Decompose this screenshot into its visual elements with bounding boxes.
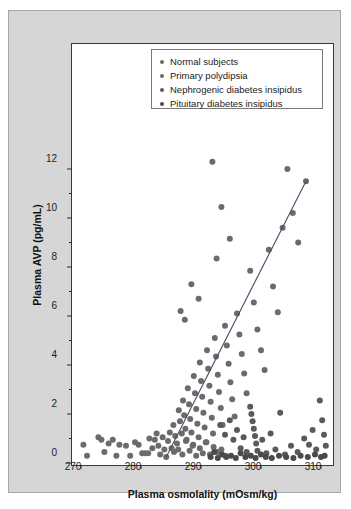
- legend-label: Primary polydipsia: [170, 69, 248, 82]
- legend-marker-icon: [160, 74, 164, 78]
- x-tick-label: 270: [55, 461, 91, 472]
- data-point: [152, 437, 158, 443]
- y-tick-label: 4: [37, 349, 57, 360]
- data-point: [238, 450, 244, 456]
- legend-marker-icon: [160, 88, 164, 92]
- data-point: [98, 437, 104, 443]
- data-point: [262, 367, 268, 373]
- legend-item-pituitary-diabetes-insipidus: Pituitary diabetes insipidus: [160, 97, 316, 110]
- legend-label: Nephrogenic diabetes insipidus: [170, 83, 302, 96]
- data-point: [310, 427, 316, 433]
- data-point: [227, 379, 233, 385]
- data-point: [170, 422, 176, 428]
- data-point: [244, 390, 250, 396]
- data-point: [182, 317, 188, 323]
- data-point: [301, 436, 307, 442]
- x-tick-label: 290: [175, 461, 211, 472]
- data-point: [247, 404, 253, 410]
- data-point: [196, 434, 202, 440]
- legend-marker-icon: [160, 60, 164, 64]
- figure-panel: Normal subjects Primary polydipsia Nephr…: [8, 10, 341, 493]
- data-point: [268, 431, 274, 437]
- data-point: [182, 426, 188, 432]
- data-point: [84, 453, 90, 459]
- data-point: [145, 450, 151, 456]
- data-point: [288, 443, 294, 449]
- data-point: [193, 453, 199, 459]
- y-tick-label: 0: [37, 447, 57, 458]
- data-point: [149, 445, 155, 451]
- data-point: [224, 342, 230, 348]
- data-point: [206, 383, 212, 389]
- legend: Normal subjects Primary polydipsia Nephr…: [151, 49, 323, 109]
- data-point: [101, 449, 107, 455]
- legend-item-nephrogenic-diabetes-insipidus: Nephrogenic diabetes insipidus: [160, 83, 316, 96]
- data-point: [252, 433, 258, 439]
- data-point: [215, 372, 221, 378]
- data-point: [283, 454, 289, 460]
- data-point: [110, 437, 116, 443]
- y-tick-label: 12: [37, 153, 57, 164]
- data-point: [209, 415, 215, 421]
- data-point: [241, 434, 247, 440]
- data-point: [183, 438, 189, 444]
- legend-label: Normal subjects: [170, 55, 238, 68]
- data-point: [180, 398, 186, 404]
- legend-label: Pituitary diabetes insipidus: [170, 97, 282, 110]
- data-point: [209, 159, 215, 165]
- data-point: [317, 398, 323, 404]
- data-point: [208, 399, 214, 405]
- data-point: [204, 347, 210, 353]
- data-point: [322, 453, 328, 459]
- data-point: [176, 407, 182, 413]
- data-point: [187, 416, 193, 422]
- data-point: [154, 431, 160, 437]
- x-axis-title: Plasma osmolality (mOsm/kg): [71, 488, 334, 500]
- data-point: [321, 432, 327, 438]
- data-point: [222, 432, 228, 438]
- data-point: [222, 323, 228, 329]
- legend-marker-icon: [160, 102, 164, 106]
- data-point: [113, 453, 119, 459]
- data-point: [319, 417, 325, 423]
- data-point: [155, 443, 161, 449]
- data-point: [284, 166, 290, 172]
- scatter-points: [80, 159, 328, 461]
- data-point: [241, 371, 247, 377]
- x-tick-label: 280: [115, 461, 151, 472]
- data-point: [306, 442, 312, 448]
- data-point: [234, 427, 240, 433]
- data-point: [226, 361, 232, 367]
- data-point: [203, 439, 209, 445]
- data-point: [177, 418, 183, 424]
- data-point: [217, 422, 223, 428]
- data-point: [232, 413, 238, 419]
- data-point: [208, 454, 214, 460]
- data-point: [123, 443, 129, 449]
- data-point: [80, 442, 86, 448]
- series-1: [80, 166, 309, 460]
- data-point: [199, 394, 205, 400]
- data-point: [258, 347, 264, 353]
- data-point: [277, 410, 283, 416]
- data-point: [187, 448, 193, 454]
- data-point: [263, 454, 269, 460]
- data-point: [295, 240, 301, 246]
- data-point: [178, 308, 184, 314]
- data-point: [229, 396, 235, 402]
- y-tick-label: 8: [37, 251, 57, 262]
- data-point: [200, 410, 206, 416]
- data-point: [218, 204, 224, 210]
- data-point: [247, 268, 253, 274]
- data-point: [210, 431, 216, 437]
- legend-item-normal-subjects: Normal subjects: [160, 55, 316, 68]
- data-point: [188, 281, 194, 287]
- data-point: [193, 406, 199, 412]
- data-point: [160, 434, 166, 440]
- data-point: [196, 296, 202, 302]
- data-point: [259, 437, 265, 443]
- data-point: [127, 453, 133, 459]
- axis-ticks: [67, 169, 321, 469]
- data-point: [136, 442, 142, 448]
- data-point: [211, 449, 217, 455]
